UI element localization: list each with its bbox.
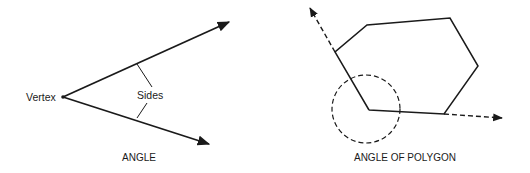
lower-side-ray — [63, 97, 209, 144]
sides-leader-upper — [137, 64, 152, 87]
angle-marker-circle — [332, 75, 400, 143]
left-side-extension — [310, 8, 335, 52]
sides-leader-lower — [137, 103, 147, 118]
polygon-angle-figure: ANGLE OF POLYGON — [310, 8, 502, 163]
angle-figure: Vertex Sides ANGLE — [26, 22, 229, 163]
angle-caption: ANGLE — [122, 152, 156, 163]
vertex-label: Vertex — [26, 91, 57, 103]
upper-side-ray — [63, 22, 229, 97]
polygon-outline — [335, 18, 478, 114]
vertex-point — [61, 95, 65, 99]
sides-label: Sides — [137, 89, 163, 101]
bottom-side-extension — [444, 114, 502, 118]
diagram-canvas: Vertex Sides ANGLE ANGLE OF POLYGON — [0, 0, 530, 173]
angle-of-polygon-caption: ANGLE OF POLYGON — [354, 152, 456, 163]
